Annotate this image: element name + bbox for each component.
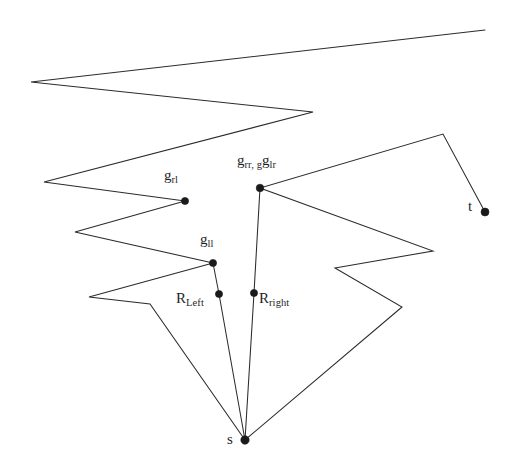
label-g-lr-base: g xyxy=(262,152,270,168)
segment-rleft-s xyxy=(219,294,245,440)
label-g-ll-base: g xyxy=(200,231,208,247)
node-g-rr-g-lr[interactable] xyxy=(256,184,264,192)
label-s-base: s xyxy=(227,431,233,447)
segment-rright-s xyxy=(245,293,254,440)
node-s[interactable] xyxy=(241,436,249,444)
node-R-Left[interactable] xyxy=(215,290,222,297)
label-g-rr-sub: rr, g xyxy=(245,159,263,170)
node-t[interactable] xyxy=(481,208,489,216)
diagram-svg xyxy=(0,0,513,463)
label-R-Left: RLeft xyxy=(176,291,204,306)
node-g-ll[interactable] xyxy=(209,259,216,266)
label-g-rr-base: g xyxy=(237,152,245,168)
node-g-rl[interactable] xyxy=(181,197,188,204)
label-g-rl-base: g xyxy=(164,167,172,183)
polygon-boundary xyxy=(31,30,485,440)
diagram-canvas: grl grr, gglr gll RLeft Rright s t xyxy=(0,0,513,463)
label-g-rl: grl xyxy=(164,168,178,183)
label-g-rl-sub: rl xyxy=(172,174,179,185)
label-g-ll: gll xyxy=(200,232,214,247)
label-R-Left-base: R xyxy=(176,290,186,306)
label-R-right: Rright xyxy=(259,291,289,306)
label-R-right-base: R xyxy=(259,290,269,306)
segment-gll-rleft xyxy=(213,263,219,294)
segment-grr-rright xyxy=(254,188,260,293)
node-R-right[interactable] xyxy=(250,289,257,296)
label-g-rr-g-lr: grr, gglr xyxy=(237,153,276,168)
label-t-base: t xyxy=(468,198,472,214)
label-g-ll-sub: ll xyxy=(208,238,214,249)
label-R-right-sub: right xyxy=(269,297,289,308)
label-t: t xyxy=(468,199,472,214)
label-g-lr-sub: lr xyxy=(270,159,277,170)
label-s: s xyxy=(227,432,233,447)
label-R-Left-sub: Left xyxy=(186,297,204,308)
